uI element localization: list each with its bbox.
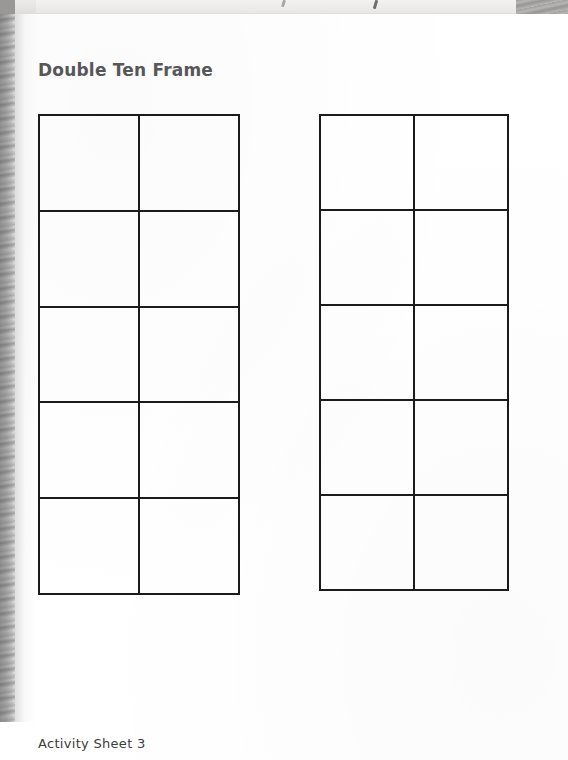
- frame-cell[interactable]: [415, 496, 509, 591]
- frame-cell[interactable]: [140, 403, 240, 499]
- frame-cell[interactable]: [415, 401, 509, 496]
- sheet-footer-label: Activity Sheet 3: [38, 736, 146, 751]
- frame-cell[interactable]: [40, 212, 140, 308]
- left-ten-frame[interactable]: [38, 114, 240, 595]
- frame-cell[interactable]: [321, 211, 415, 306]
- frame-cell[interactable]: [321, 496, 415, 591]
- scanned-worksheet-page: Double Ten Frame Acti: [0, 0, 568, 760]
- frame-cell[interactable]: [140, 308, 240, 404]
- frame-cell[interactable]: [321, 401, 415, 496]
- frame-cell[interactable]: [40, 116, 140, 212]
- right-ten-frame[interactable]: [319, 114, 509, 591]
- frame-cell[interactable]: [40, 308, 140, 404]
- frame-cell[interactable]: [321, 306, 415, 401]
- ten-frames-container: [0, 0, 568, 760]
- frame-cell[interactable]: [415, 211, 509, 306]
- frame-cell[interactable]: [321, 116, 415, 211]
- frame-cell[interactable]: [415, 306, 509, 401]
- frame-cell[interactable]: [40, 499, 140, 595]
- frame-cell[interactable]: [140, 116, 240, 212]
- frame-cell[interactable]: [140, 212, 240, 308]
- frame-cell[interactable]: [140, 499, 240, 595]
- frame-cell[interactable]: [415, 116, 509, 211]
- frame-cell[interactable]: [40, 403, 140, 499]
